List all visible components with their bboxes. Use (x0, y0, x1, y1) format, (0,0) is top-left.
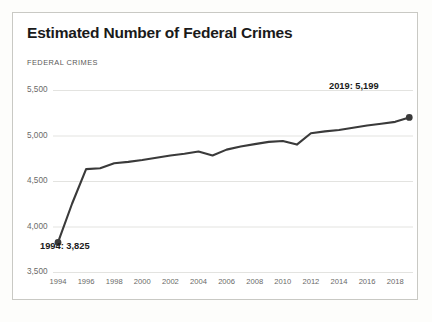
x-axis-tick-label: 2014 (324, 277, 354, 286)
x-axis-tick-label: 2002 (155, 277, 185, 286)
annotation-start-value: 1994: 3,825 (40, 241, 90, 251)
x-axis-tick-label: 1998 (99, 277, 129, 286)
chart-card: Estimated Number of Federal Crimes FEDER… (12, 12, 418, 300)
x-axis-tick-label: 2012 (296, 277, 326, 286)
x-axis-tick-label: 1996 (71, 277, 101, 286)
x-axis-tick-label: 2008 (240, 277, 270, 286)
x-axis-tick-label: 2010 (268, 277, 298, 286)
x-axis-tick-label: 1994 (43, 277, 73, 286)
x-axis-tick-label: 2000 (127, 277, 157, 286)
annotation-end-value: 2019: 5,199 (329, 81, 379, 91)
y-axis-tick-label: 4,000 (27, 222, 48, 231)
gridlines (53, 91, 413, 273)
y-axis-tick-label: 5,000 (27, 131, 48, 140)
y-axis-tick-label: 3,500 (27, 267, 48, 276)
y-axis-tick-label: 5,500 (27, 85, 48, 94)
screenshot-page: Estimated Number of Federal Crimes FEDER… (0, 0, 432, 322)
line-chart-svg (13, 13, 419, 301)
y-axis-tick-label: 4,500 (27, 176, 48, 185)
x-axis-tick-label: 2018 (380, 277, 410, 286)
x-axis-tick-label: 2006 (212, 277, 242, 286)
series-markers (55, 114, 413, 246)
x-axis-tick-label: 2004 (184, 277, 214, 286)
data-point-marker (406, 114, 413, 121)
chart-plot-area: 3,5004,0004,5005,0005,500 19941996199820… (13, 13, 419, 301)
x-axis-tick-label: 2016 (352, 277, 382, 286)
